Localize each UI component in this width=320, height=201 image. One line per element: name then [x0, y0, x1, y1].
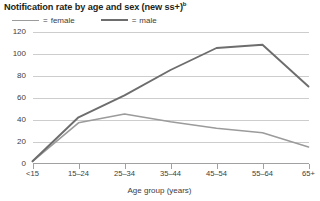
series-group [33, 45, 309, 162]
series-line-male [33, 45, 309, 162]
plot-area: 120100806040200 <1515–2425–3435–4445–545… [0, 0, 319, 201]
x-axis-tick-label: 65+ [287, 170, 320, 178]
x-axis-tick-label: 45–54 [195, 170, 239, 178]
x-axis-tick-label: <15 [11, 170, 55, 178]
y-axis-tick-label: 40 [2, 116, 26, 124]
x-axis-tick-label: 35–44 [149, 170, 193, 178]
y-axis-tick-label: 100 [2, 50, 26, 58]
y-axis-tick-label: 20 [2, 138, 26, 146]
y-axis-tick-label: 80 [2, 72, 26, 80]
x-axis-title: Age group (years) [0, 186, 319, 195]
tickmarks-group [34, 164, 310, 169]
chart-container: Notification rate by age and sex (new ss… [0, 0, 319, 201]
x-axis-tick-label: 25–34 [103, 170, 147, 178]
y-axis-tick-label: 0 [2, 160, 26, 168]
x-axis-tick-label: 55–64 [241, 170, 285, 178]
y-axis-tick-label: 120 [2, 28, 26, 36]
x-axis-tick-label: 15–24 [57, 170, 101, 178]
y-axis-tick-label: 60 [2, 94, 26, 102]
